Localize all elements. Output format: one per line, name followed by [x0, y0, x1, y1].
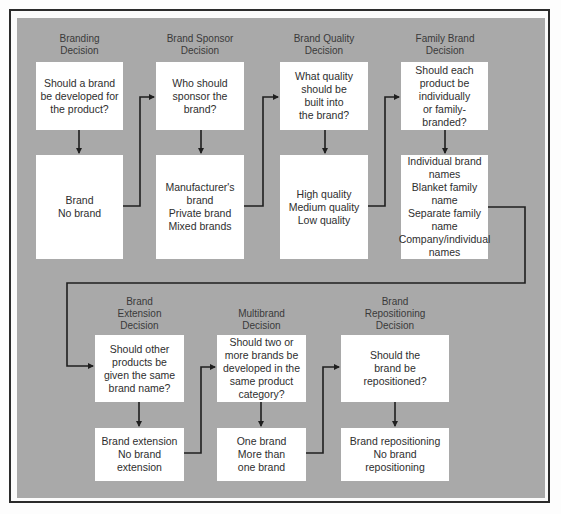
brand-extension-question-box: Should other products be given the same …: [95, 335, 184, 402]
family-brand-options-box: Individual brand names Blanket family na…: [401, 155, 488, 259]
brand-quality-options-box: High quality Medium quality Low quality: [280, 155, 368, 259]
brand-repositioning-options-box: Brand repositioning No brand repositioni…: [341, 428, 449, 481]
multibrand-options-box: One brand More than one brand: [217, 428, 306, 481]
multibrand-decision-title: Multibrand Decision: [217, 308, 306, 332]
brand-extension-decision-title: Brand Extension Decision: [95, 296, 184, 332]
family-brand-decision-title: Family Brand Decision: [395, 33, 495, 57]
brand-extension-options-box: Brand extension No brand extension: [95, 428, 184, 481]
branding-options-box: Brand No brand: [36, 155, 123, 259]
branding-question-box: Should a brand be developed for the prod…: [36, 62, 123, 130]
brand-repositioning-question-box: Should the brand be repositioned?: [341, 335, 449, 402]
brand-sponsor-options-box: Manufacturer's brand Private brand Mixed…: [156, 155, 244, 259]
multibrand-question-box: Should two or more brands be developed i…: [217, 335, 306, 402]
brand-repositioning-decision-title: Brand Repositioning Decision: [341, 296, 449, 332]
brand-sponsor-decision-title: Brand Sponsor Decision: [150, 33, 250, 57]
brand-quality-decision-title: Brand Quality Decision: [274, 33, 374, 57]
family-brand-question-box: Should each product be individually or f…: [401, 62, 488, 130]
brand-sponsor-question-box: Who should sponsor the brand?: [156, 62, 244, 130]
branding-decision-title: Branding Decision: [36, 33, 123, 57]
brand-quality-question-box: What quality should be built into the br…: [280, 62, 368, 130]
